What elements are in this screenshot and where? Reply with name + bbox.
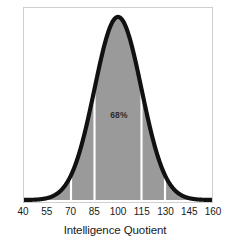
x-tick-label-115: 115: [134, 206, 150, 217]
x-tick-label-100: 100: [110, 206, 127, 217]
x-tick-label-85: 85: [89, 206, 100, 217]
distribution-curve-svg: [24, 8, 212, 202]
chart-figure: Proportion of Population 68% 40557085100…: [0, 0, 230, 244]
x-tick-label-70: 70: [65, 206, 76, 217]
curve-fill: [24, 17, 212, 200]
plot-area: 68%: [23, 7, 213, 203]
x-tick-label-130: 130: [157, 206, 174, 217]
x-tick-label-55: 55: [41, 206, 52, 217]
x-axis-title: Intelligence Quotient: [0, 224, 230, 236]
sixty-eight-percent-label: 68%: [110, 110, 128, 120]
x-tick-label-145: 145: [181, 206, 198, 217]
x-tick-label-160: 160: [205, 206, 222, 217]
x-tick-label-40: 40: [17, 206, 28, 217]
curve-fill-path: [24, 17, 212, 200]
